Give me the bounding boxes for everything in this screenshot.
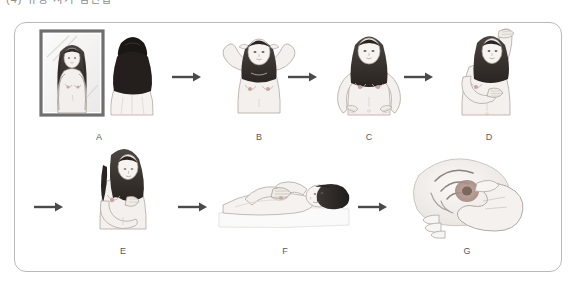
panel-e: E [73,141,173,256]
arrow-b-to-c [287,71,317,83]
arrow-e-to-f [177,201,207,213]
panel-a: A [33,27,165,142]
lying-down-exam-illustration [215,141,355,237]
arm-raised-palpation-illustration [439,27,539,123]
panel-g: G [397,141,537,256]
top-caption-text: (4) 유방 자가 검진법 [6,0,112,6]
arrow-f-to-g [357,201,387,213]
circular-palpation-closeup-illustration [397,141,537,237]
nipple-squeeze-illustration [73,141,173,237]
panel-label-f: F [215,246,355,256]
panel-label-g: G [397,246,537,256]
top-caption: (4) 유방 자가 검진법 [6,0,126,9]
panel-label-e: E [73,246,173,256]
panel-b: B [211,27,307,142]
arrow-a-to-b [171,71,201,83]
arrow-d-to-e [33,201,63,213]
panel-d: D [439,27,539,142]
arrow-c-to-d [403,71,433,83]
panel-f: F [215,141,355,256]
panel-row-bottom: E [15,141,561,256]
panel-c: C [321,27,417,142]
mirror-inspection-illustration [33,27,165,123]
panel-row-top: A [15,27,561,142]
figure-frame: A [14,22,562,272]
